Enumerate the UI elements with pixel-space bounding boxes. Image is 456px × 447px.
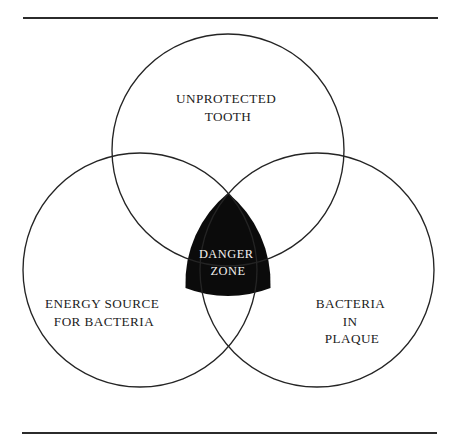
venn-diagram-canvas: UNPROTECTED TOOTH ENERGY SOURCE FOR BACT… — [0, 0, 456, 447]
venn-diagram-figure: UNPROTECTED TOOTH ENERGY SOURCE FOR BACT… — [0, 0, 456, 447]
label-unprotected-tooth: UNPROTECTED TOOTH — [176, 91, 280, 124]
label-energy-source-for-bacteria: ENERGY SOURCE FOR BACTERIA — [45, 296, 163, 329]
label-danger-zone-line1: DANGER — [199, 247, 254, 261]
label-energy-source-line2: FOR BACTERIA — [54, 314, 154, 329]
label-bacteria-in-plaque-line3: PLAQUE — [325, 331, 380, 346]
label-bacteria-in-plaque: BACTERIA IN PLAQUE — [316, 296, 389, 346]
label-danger-zone-line2: ZONE — [210, 263, 245, 277]
label-unprotected-tooth-line1: UNPROTECTED — [176, 91, 276, 106]
label-bacteria-in-plaque-line1: BACTERIA — [316, 296, 386, 311]
label-energy-source-line1: ENERGY SOURCE — [45, 296, 159, 311]
danger-zone-region — [185, 193, 270, 296]
label-unprotected-tooth-line2: TOOTH — [205, 109, 252, 124]
label-bacteria-in-plaque-line2: IN — [343, 314, 358, 329]
